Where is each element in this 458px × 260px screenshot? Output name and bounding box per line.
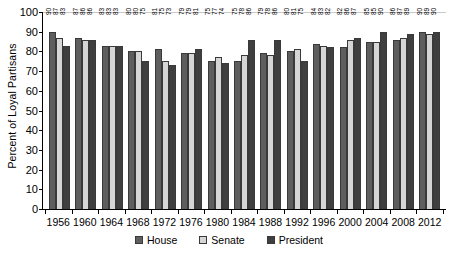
bar-wrapper: 75 xyxy=(301,12,308,209)
bar-house: 86 xyxy=(393,40,400,209)
bar-president: 83 xyxy=(116,46,123,210)
bar-senate: 87 xyxy=(56,38,63,209)
x-tick-label: 2000 xyxy=(337,216,364,228)
bar-wrapper: 83 xyxy=(320,12,327,209)
bar-value-label: 83 xyxy=(60,7,67,14)
bar-wrapper: 86 xyxy=(89,12,96,209)
bar-wrapper: 85 xyxy=(373,12,380,209)
x-tick-mark xyxy=(72,210,73,214)
bar-senate: 83 xyxy=(320,46,327,210)
bar-wrapper: 83 xyxy=(102,12,109,209)
bar-house: 90 xyxy=(49,32,56,209)
bar-wrapper: 87 xyxy=(56,12,63,209)
bar-house: 75 xyxy=(234,61,241,209)
bar-value-label: 90 xyxy=(430,7,437,14)
bar-senate: 78 xyxy=(267,55,274,209)
bar-group: 858590 xyxy=(364,12,390,209)
bar-value-label: 86 xyxy=(245,7,252,14)
bar-house: 85 xyxy=(366,42,373,209)
x-tick-mark xyxy=(416,210,417,214)
bar-value-label: 86 xyxy=(271,7,278,14)
bar-wrapper: 83 xyxy=(109,12,116,209)
y-axis-title: Percent of Loyal Partisans xyxy=(2,0,22,212)
bar-wrapper: 90 xyxy=(380,12,387,209)
bar-wrapper: 90 xyxy=(433,12,440,209)
bar-wrapper: 80 xyxy=(287,12,294,209)
bar-senate: 87 xyxy=(400,38,407,209)
x-tick-label: 1976 xyxy=(178,216,205,228)
bar-house: 82 xyxy=(340,47,347,209)
x-tick-mark xyxy=(98,210,99,214)
x-tick-mark xyxy=(204,210,205,214)
x-tick-label: 2008 xyxy=(390,216,417,228)
bar-president: 86 xyxy=(274,40,281,209)
legend-item-president[interactable]: President xyxy=(267,234,323,246)
x-tick-label: 1992 xyxy=(284,216,311,228)
x-tick-mark xyxy=(443,210,444,214)
bar-wrapper: 83 xyxy=(116,12,123,209)
bar-value-label: 90 xyxy=(377,7,384,14)
bar-group: 828687 xyxy=(337,12,363,209)
bar-value-label: 86 xyxy=(86,7,93,14)
bar-group: 757886 xyxy=(231,12,257,209)
x-tick-mark xyxy=(125,210,126,214)
bar-wrapper: 84 xyxy=(313,12,320,209)
bar-senate: 75 xyxy=(162,61,169,209)
bar-wrapper: 77 xyxy=(215,12,222,209)
legend-item-senate[interactable]: Senate xyxy=(199,234,244,246)
bar-groups: 9087838786868383838080758175737979817577… xyxy=(43,12,446,209)
bar-value-label: 75 xyxy=(298,7,305,14)
bar-group: 838383 xyxy=(99,12,125,209)
legend-label-senate: Senate xyxy=(211,234,244,246)
bar-president: 75 xyxy=(142,61,149,209)
bar-wrapper: 87 xyxy=(75,12,82,209)
x-tick-mark xyxy=(257,210,258,214)
bar-wrapper: 89 xyxy=(407,12,414,209)
bar-wrapper: 75 xyxy=(142,12,149,209)
bar-group: 878686 xyxy=(72,12,98,209)
x-tick-label: 1984 xyxy=(231,216,258,228)
bar-senate: 80 xyxy=(135,51,142,209)
x-tick-mark xyxy=(178,210,179,214)
bar-house: 87 xyxy=(75,38,82,209)
x-tick-mark xyxy=(231,210,232,214)
x-axis-labels: 1956196019641968197219761980198419881992… xyxy=(42,216,446,228)
bar-president: 87 xyxy=(354,38,361,209)
x-tick-mark xyxy=(284,210,285,214)
bar-wrapper: 86 xyxy=(274,12,281,209)
bar-value-label: 73 xyxy=(166,7,173,14)
bar-senate: 86 xyxy=(347,40,354,209)
bar-senate: 81 xyxy=(294,49,301,209)
bar-president: 90 xyxy=(380,32,387,209)
bar-value-label: 83 xyxy=(113,7,120,14)
bar-wrapper: 86 xyxy=(393,12,400,209)
bar-value-label: 81 xyxy=(192,7,199,14)
bar-president: 89 xyxy=(407,34,414,209)
bar-group: 757774 xyxy=(205,12,231,209)
bar-president: 83 xyxy=(63,46,70,210)
plot-area: 0102030405060708090100 90878387868683838… xyxy=(42,12,446,210)
bar-group: 797981 xyxy=(178,12,204,209)
bar-senate: 79 xyxy=(188,53,195,209)
bar-senate: 83 xyxy=(109,46,116,210)
bar-president: 75 xyxy=(301,61,308,209)
bar-wrapper: 85 xyxy=(366,12,373,209)
bar-group: 848382 xyxy=(311,12,337,209)
legend-swatch-president xyxy=(267,236,275,244)
x-tick-label: 1980 xyxy=(204,216,231,228)
x-tick-mark xyxy=(151,210,152,214)
bar-wrapper: 78 xyxy=(267,12,274,209)
bar-wrapper: 79 xyxy=(188,12,195,209)
bar-wrapper: 81 xyxy=(294,12,301,209)
x-tick-mark xyxy=(390,210,391,214)
legend-swatch-senate xyxy=(199,236,207,244)
bar-president: 86 xyxy=(248,40,255,209)
legend-item-house[interactable]: House xyxy=(135,234,177,246)
bar-wrapper: 80 xyxy=(128,12,135,209)
bar-value-label: 75 xyxy=(139,7,146,14)
x-axis: 1956196019641968197219761980198419881992… xyxy=(42,210,446,232)
bar-wrapper: 75 xyxy=(162,12,169,209)
x-tick-label: 1972 xyxy=(151,216,178,228)
x-tick-label: 2004 xyxy=(363,216,390,228)
bar-house: 75 xyxy=(208,61,215,209)
